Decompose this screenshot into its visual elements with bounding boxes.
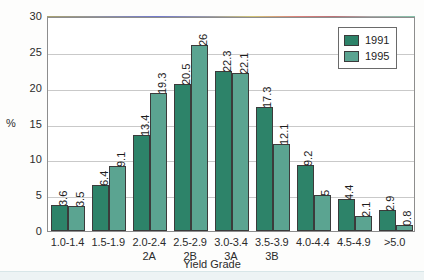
bar-value-label: 22.1 <box>239 52 250 73</box>
x-tick-label: 4.5-4.9 <box>333 236 374 248</box>
x-tick-range: 4.0-4.4 <box>296 236 330 248</box>
bar-group: 13.419.3 <box>133 18 167 231</box>
x-tick-label: >5.0 <box>374 236 415 248</box>
bar-group: 9.25 <box>297 18 331 231</box>
bar[interactable]: 22.1 <box>232 73 249 231</box>
x-tick-range: 1.0-1.4 <box>51 236 85 248</box>
bar-value-label: 4.4 <box>344 185 355 200</box>
y-tick-label: 30 <box>16 10 42 22</box>
bar-value-label: 3.5 <box>75 192 86 207</box>
legend-swatch-icon <box>344 51 359 62</box>
bar[interactable]: 2.1 <box>355 216 372 231</box>
chart-figure: % 051015202530 3.63.56.49.113.419.320.52… <box>0 0 424 280</box>
bar[interactable]: 22.3 <box>215 71 232 231</box>
bar[interactable]: 26 <box>191 45 208 231</box>
x-axis-title: Yield Grade <box>0 258 424 270</box>
y-tick-label: 15 <box>16 118 42 130</box>
bottom-band <box>0 271 424 280</box>
y-tick-label: 5 <box>16 189 42 201</box>
legend-item[interactable]: 1995 <box>344 48 389 64</box>
x-tick-range: 1.5-1.9 <box>92 236 126 248</box>
x-tick-range: 3.0-3.4 <box>214 236 248 248</box>
x-tick-range: 2.0-2.4 <box>132 236 166 248</box>
legend-label: 1991 <box>365 34 389 46</box>
legend-swatch-icon <box>344 35 359 46</box>
y-tick-label: 25 <box>16 46 42 58</box>
bar[interactable]: 4.4 <box>338 199 355 231</box>
x-tick-range: 3.5-3.9 <box>255 236 289 248</box>
bar[interactable]: 20.5 <box>174 84 191 231</box>
bar-value-label: 12.1 <box>279 124 290 145</box>
bar[interactable]: 5 <box>314 195 331 231</box>
bar-value-label: 17.3 <box>262 87 273 108</box>
bar-group: 20.526 <box>174 18 208 231</box>
bar-group: 22.322.1 <box>215 18 249 231</box>
bar[interactable]: 19.3 <box>150 93 167 231</box>
bar[interactable]: 6.4 <box>92 185 109 231</box>
bar-value-label: 6.4 <box>99 171 110 186</box>
bar-group: 3.63.5 <box>51 18 85 231</box>
bar[interactable]: 13.4 <box>133 135 150 231</box>
bar-value-label: 2.1 <box>361 202 372 217</box>
y-tick-label: 0 <box>16 225 42 237</box>
bar-group: 6.49.1 <box>92 18 126 231</box>
bar-value-label: 26 <box>198 33 209 45</box>
bar[interactable]: 17.3 <box>256 107 273 231</box>
bar[interactable]: 2.9 <box>379 210 396 231</box>
x-tick-label: 1.0-1.4 <box>47 236 88 248</box>
x-tick-label: 4.0-4.4 <box>292 236 333 248</box>
y-tick-label: 20 <box>16 82 42 94</box>
bar[interactable]: 0.8 <box>396 225 413 231</box>
y-axis-label: % <box>6 117 16 129</box>
chart-legend: 19911995 <box>338 27 397 69</box>
bar-value-label: 5 <box>320 190 331 196</box>
bar-value-label: 3.6 <box>58 191 69 206</box>
bar-value-label: 19.3 <box>157 72 168 93</box>
x-tick-range: >5.0 <box>384 236 405 248</box>
bar-value-label: 2.9 <box>385 196 396 211</box>
legend-label: 1995 <box>365 50 389 62</box>
bar[interactable]: 3.5 <box>68 206 85 231</box>
x-tick-range: 4.5-4.9 <box>337 236 371 248</box>
bar[interactable]: 9.2 <box>297 165 314 231</box>
legend-item[interactable]: 1991 <box>344 32 389 48</box>
x-tick-range: 2.5-2.9 <box>173 236 207 248</box>
bar-group: 17.312.1 <box>256 18 290 231</box>
bar-value-label: 9.1 <box>116 152 127 167</box>
bar-value-label: 13.4 <box>140 115 151 136</box>
bar[interactable]: 12.1 <box>273 144 290 231</box>
bar-value-label: 0.8 <box>402 211 413 226</box>
bar-value-label: 20.5 <box>181 64 192 85</box>
x-tick-label: 1.5-1.9 <box>88 236 129 248</box>
bar[interactable]: 9.1 <box>109 166 126 231</box>
bar-value-label: 22.3 <box>222 51 233 72</box>
bar-value-label: 9.2 <box>303 151 314 166</box>
bar[interactable]: 3.6 <box>51 205 68 231</box>
y-tick-label: 10 <box>16 153 42 165</box>
